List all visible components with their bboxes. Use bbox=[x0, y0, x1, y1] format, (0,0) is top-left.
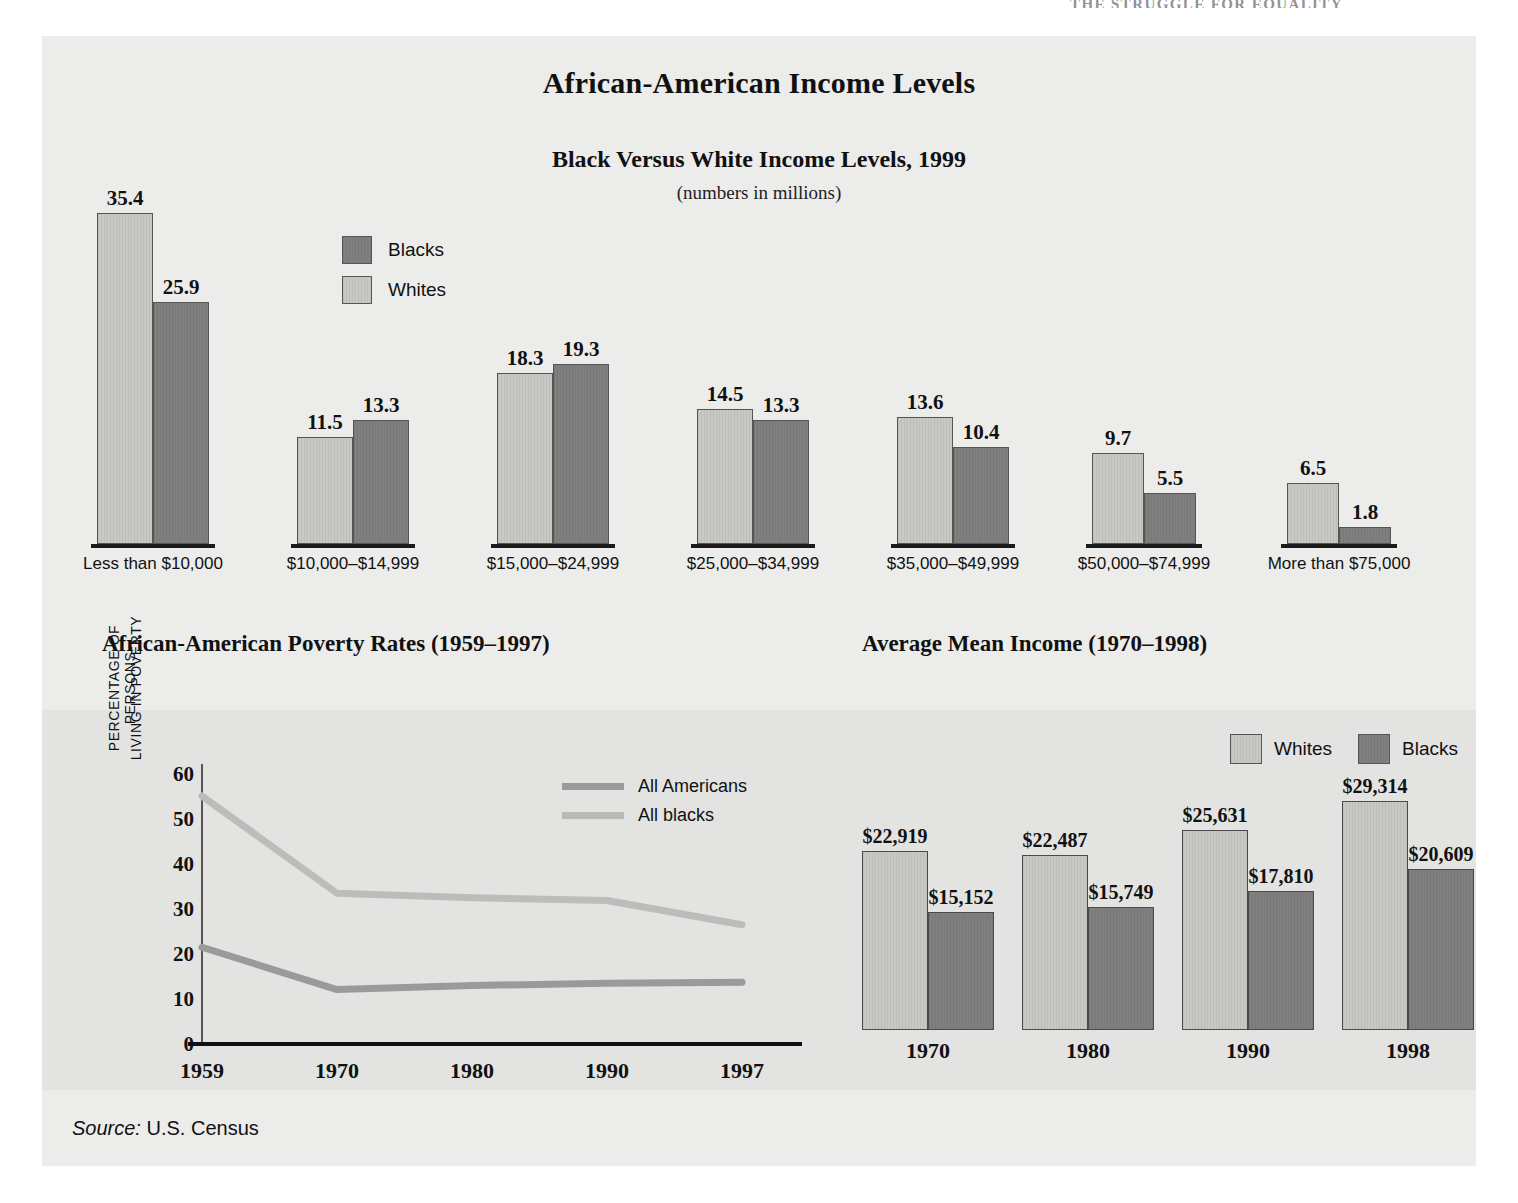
page-canvas: THE STRUGGLE FOR EQUALITY African-Americ… bbox=[0, 0, 1518, 1203]
bar-value-label: 14.5 bbox=[707, 382, 744, 407]
poverty-line-chart: PERCENTAGE OF PERSONS LIVING IN POVERTY … bbox=[102, 726, 802, 1086]
source-note: Source: U.S. Census bbox=[72, 1117, 259, 1140]
bar-fill bbox=[553, 364, 609, 544]
baseline bbox=[1086, 544, 1202, 548]
bar-fill bbox=[153, 302, 209, 544]
income-category-label: 1980 bbox=[1066, 1038, 1110, 1064]
bar-group: 13.610.4$35,000–$49,999 bbox=[897, 204, 1009, 544]
category-label: $35,000–$49,999 bbox=[887, 554, 1019, 574]
bar-whites[interactable]: 18.3 bbox=[497, 373, 553, 544]
baseline bbox=[691, 544, 815, 548]
bar-whites[interactable]: 14.5 bbox=[697, 409, 753, 544]
bar-fill bbox=[353, 420, 409, 544]
income-bar-blacks[interactable]: $15,749 bbox=[1088, 907, 1154, 1030]
income-bar-pair: $25,631$17,810 bbox=[1182, 792, 1314, 1030]
bar-whites[interactable]: 9.7 bbox=[1092, 453, 1144, 544]
line-series-all-americans bbox=[202, 947, 742, 989]
income-bar-value-label: $15,152 bbox=[929, 886, 994, 909]
income-chart-legend: Whites Blacks bbox=[1230, 734, 1484, 764]
bar-blacks[interactable]: 1.8 bbox=[1339, 527, 1391, 544]
category-label: $15,000–$24,999 bbox=[487, 554, 619, 574]
bar-group: 9.75.5$50,000–$74,999 bbox=[1092, 204, 1196, 544]
bar-fill bbox=[862, 851, 928, 1030]
source-text: U.S. Census bbox=[147, 1117, 259, 1139]
bar-blacks[interactable]: 25.9 bbox=[153, 302, 209, 544]
bar-value-label: 11.5 bbox=[307, 410, 343, 435]
income-bar-pair: $22,919$15,152 bbox=[862, 792, 994, 1030]
income-bar-blacks[interactable]: $17,810 bbox=[1248, 891, 1314, 1030]
income-bar-pair: $29,314$20,609 bbox=[1342, 792, 1474, 1030]
bar-blacks[interactable]: 5.5 bbox=[1144, 493, 1196, 544]
income-bar-whites[interactable]: $22,919 bbox=[862, 851, 928, 1030]
income-category-label: 1970 bbox=[906, 1038, 950, 1064]
poverty-section-title: African-American Poverty Rates (1959–199… bbox=[102, 631, 550, 657]
line-chart-legend: All Americans All blacks bbox=[562, 776, 747, 834]
baseline bbox=[491, 544, 615, 548]
bar-blacks[interactable]: 13.3 bbox=[353, 420, 409, 544]
income-bar-whites[interactable]: $29,314 bbox=[1342, 801, 1408, 1030]
bar-group: 18.319.3$15,000–$24,999 bbox=[497, 204, 609, 544]
bar-blacks[interactable]: 10.4 bbox=[953, 447, 1009, 544]
income-category-label: 1990 bbox=[1226, 1038, 1270, 1064]
bar-value-label: 13.6 bbox=[907, 390, 944, 415]
legend-swatch-whites-icon bbox=[1230, 734, 1262, 764]
income-bar-value-label: $20,609 bbox=[1409, 843, 1474, 866]
bar-pair: 11.513.3 bbox=[297, 204, 409, 544]
income-bar-blacks[interactable]: $15,152 bbox=[928, 912, 994, 1030]
income-bar-value-label: $15,749 bbox=[1089, 881, 1154, 904]
income-bar-value-label: $22,487 bbox=[1023, 829, 1088, 852]
income-bar-group: $22,919$15,1521970 bbox=[862, 792, 994, 1030]
bar-value-label: 35.4 bbox=[107, 186, 144, 211]
bar-fill bbox=[928, 912, 994, 1030]
bar-whites[interactable]: 13.6 bbox=[897, 417, 953, 544]
income-bar-blacks[interactable]: $20,609 bbox=[1408, 869, 1474, 1030]
bar-value-label: 13.3 bbox=[363, 393, 400, 418]
bar-whites[interactable]: 11.5 bbox=[297, 437, 353, 544]
bar-whites[interactable]: 6.5 bbox=[1287, 483, 1339, 544]
bar-group: 14.513.3$25,000–$34,999 bbox=[697, 204, 809, 544]
bar-pair: 18.319.3 bbox=[497, 204, 609, 544]
baseline bbox=[291, 544, 415, 548]
bar-whites[interactable]: 35.4 bbox=[97, 213, 153, 544]
category-label: $50,000–$74,999 bbox=[1078, 554, 1210, 574]
bar-value-label: 1.8 bbox=[1352, 500, 1378, 525]
bar-value-label: 18.3 bbox=[507, 346, 544, 371]
page-title: African-American Income Levels bbox=[42, 66, 1476, 100]
bar-fill bbox=[297, 437, 353, 544]
bar-fill bbox=[1182, 830, 1248, 1030]
income-bar-value-label: $22,919 bbox=[863, 825, 928, 848]
legend-label-all-americans: All Americans bbox=[638, 776, 747, 797]
income-bar-value-label: $17,810 bbox=[1249, 865, 1314, 888]
figure-panel: African-American Income Levels Black Ver… bbox=[42, 36, 1476, 1166]
bar-fill bbox=[497, 373, 553, 544]
bar-blacks[interactable]: 13.3 bbox=[753, 420, 809, 544]
bar-pair: 6.51.8 bbox=[1287, 204, 1391, 544]
category-label: Less than $10,000 bbox=[83, 554, 223, 574]
income-bar-whites[interactable]: $25,631 bbox=[1182, 830, 1248, 1030]
income-bar-whites[interactable]: $22,487 bbox=[1022, 855, 1088, 1030]
bar-value-label: 9.7 bbox=[1105, 426, 1131, 451]
running-head: THE STRUGGLE FOR EQUALITY bbox=[1070, 0, 1470, 8]
baseline bbox=[91, 544, 215, 548]
income-section-title: Average Mean Income (1970–1998) bbox=[862, 631, 1207, 657]
bar-group: 11.513.3$10,000–$14,999 bbox=[297, 204, 409, 544]
category-label: $10,000–$14,999 bbox=[287, 554, 419, 574]
bar-blacks[interactable]: 19.3 bbox=[553, 364, 609, 544]
income-bar-group: $29,314$20,6091998 bbox=[1342, 792, 1474, 1030]
income-bar-group: $25,631$17,8101990 bbox=[1182, 792, 1314, 1030]
income-bar-value-label: $29,314 bbox=[1343, 775, 1408, 798]
bar-fill bbox=[1342, 801, 1408, 1030]
bar-pair: 9.75.5 bbox=[1092, 204, 1196, 544]
bar-pair: 14.513.3 bbox=[697, 204, 809, 544]
category-label: More than $75,000 bbox=[1268, 554, 1411, 574]
bar-fill bbox=[953, 447, 1009, 544]
bar-value-label: 13.3 bbox=[763, 393, 800, 418]
bar-fill bbox=[1144, 493, 1196, 544]
bar-fill bbox=[1248, 891, 1314, 1030]
bar-value-label: 5.5 bbox=[1157, 466, 1183, 491]
income-levels-bar-chart: Blacks Whites 35.425.9Less than $10,0001… bbox=[42, 166, 1476, 586]
bar-fill bbox=[753, 420, 809, 544]
legend-label-whites: Whites bbox=[1274, 738, 1332, 760]
bar-value-label: 6.5 bbox=[1300, 456, 1326, 481]
legend-item-all-blacks: All blacks bbox=[562, 805, 747, 826]
